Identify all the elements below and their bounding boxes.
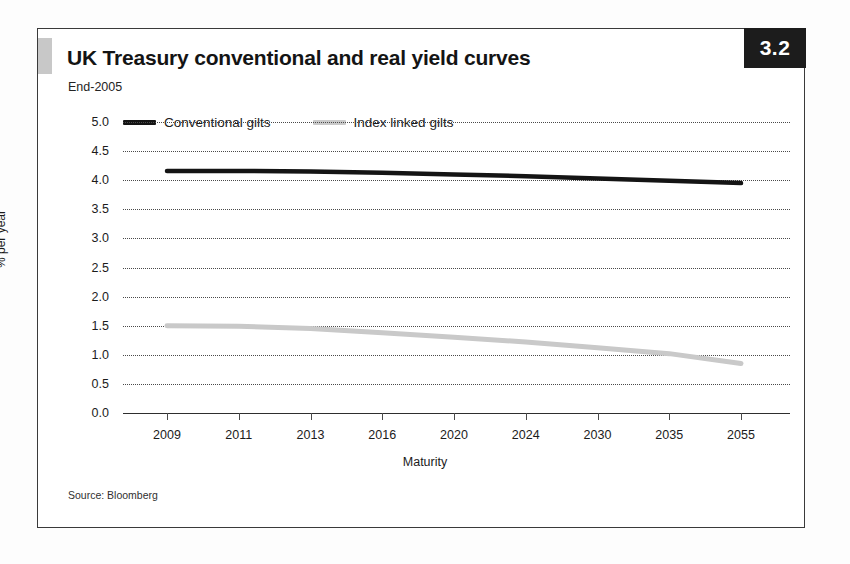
x-axis-tick-label: 2024 — [512, 428, 540, 442]
x-axis-tick-label: 2009 — [153, 428, 181, 442]
source-note: Source: Bloomberg — [68, 489, 158, 501]
y-axis-tick-label: 4.0 — [92, 173, 109, 187]
x-axis-tick-label: 2055 — [727, 428, 755, 442]
plot-area — [123, 122, 790, 413]
x-axis-tick-label: 2016 — [368, 428, 396, 442]
x-axis-tick-label: 2035 — [655, 428, 683, 442]
x-axis-tick — [669, 413, 670, 420]
y-axis-tick-labels: 0.00.51.01.52.02.53.03.54.04.55.0 — [0, 122, 119, 413]
x-axis-tick-label: 2020 — [440, 428, 468, 442]
x-axis-line — [123, 413, 790, 414]
y-axis-tick-label: 0.5 — [92, 377, 109, 391]
y-axis-tick-label: 1.5 — [92, 319, 109, 333]
series-line — [167, 326, 741, 364]
x-axis-tick — [598, 413, 599, 420]
figure-number-badge: 3.2 — [744, 28, 806, 68]
y-axis-title: % per year — [0, 210, 8, 268]
figure-subtitle: End-2005 — [68, 80, 122, 94]
y-axis-tick-label: 2.0 — [92, 290, 109, 304]
y-axis-tick-label: 3.0 — [92, 231, 109, 245]
y-axis-tick-label: 4.5 — [92, 144, 109, 158]
x-axis-tick-label: 2011 — [225, 428, 252, 442]
y-axis-tick-label: 0.0 — [92, 406, 109, 420]
series-line — [167, 171, 741, 183]
accent-square — [38, 38, 52, 74]
figure-title: UK Treasury conventional and real yield … — [67, 46, 531, 70]
x-axis-tick — [741, 413, 742, 420]
series-layer — [123, 122, 790, 413]
x-axis-title: Maturity — [0, 455, 850, 469]
x-axis-tick — [167, 413, 168, 420]
x-axis-tick-label: 2013 — [297, 428, 325, 442]
x-axis-tick — [454, 413, 455, 420]
x-axis-tick — [382, 413, 383, 420]
x-axis-tick — [239, 413, 240, 420]
figure-root: 3.2 UK Treasury conventional and real yi… — [0, 0, 850, 564]
x-axis-tick — [311, 413, 312, 420]
y-axis-tick-label: 1.0 — [92, 348, 109, 362]
y-axis-tick-label: 3.5 — [92, 202, 109, 216]
x-axis-tick-label: 2030 — [584, 428, 612, 442]
x-axis-tick — [526, 413, 527, 420]
y-axis-tick-label: 2.5 — [92, 261, 109, 275]
y-axis-tick-label: 5.0 — [92, 115, 109, 129]
